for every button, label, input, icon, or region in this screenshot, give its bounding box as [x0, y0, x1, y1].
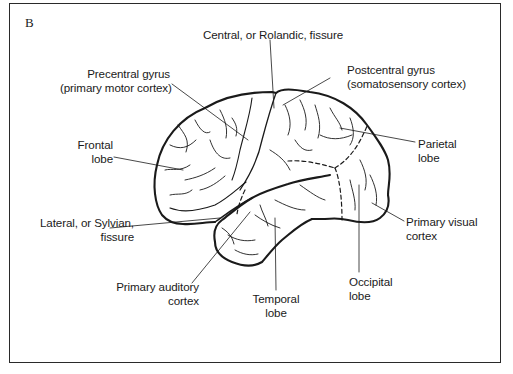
leader-temporal: [275, 218, 276, 290]
leader-frontal: [114, 157, 183, 170]
label-lateral-line1: Lateral, or Sylvian,: [10, 216, 134, 230]
label-precentral-gyrus: Precentral gyrus (primary motor cortex): [60, 67, 170, 94]
label-parietal-lobe: Parietal lobe: [418, 137, 488, 164]
label-auditory-line2: cortex: [95, 294, 199, 308]
label-occipital-line2: lobe: [349, 289, 419, 303]
label-lateral-line2: fissure: [10, 230, 134, 244]
temporal-outline: [214, 175, 330, 266]
label-precentral-line1: Precentral gyrus: [60, 67, 170, 81]
label-lateral-fissure: Lateral, or Sylvian, fissure: [10, 216, 134, 243]
label-precentral-line2: (primary motor cortex): [60, 81, 170, 95]
label-temporal-lobe: Temporal lobe: [241, 292, 311, 319]
label-visual-line2: cortex: [406, 229, 501, 243]
label-frontal-line1: Frontal: [40, 138, 113, 152]
label-frontal-line2: lobe: [40, 152, 113, 166]
label-temporal-line1: Temporal: [241, 292, 311, 306]
label-postcentral-gyrus: Postcentral gyrus (somatosensory cortex): [347, 63, 477, 90]
label-occipital-lobe: Occipital lobe: [349, 275, 419, 302]
label-primary-auditory-cortex: Primary auditory cortex: [95, 280, 199, 307]
label-parietal-line1: Parietal: [418, 137, 488, 151]
label-central-fissure: Central, or Rolandic, fissure: [183, 28, 363, 42]
label-frontal-lobe: Frontal lobe: [40, 138, 113, 165]
label-temporal-line2: lobe: [241, 306, 311, 320]
label-primary-visual-cortex: Primary visual cortex: [406, 215, 501, 242]
label-visual-line1: Primary visual: [406, 215, 501, 229]
brain-outline: [205, 90, 390, 223]
label-auditory-line1: Primary auditory: [95, 280, 199, 294]
label-postcentral-line1: Postcentral gyrus: [347, 63, 477, 77]
leader-postcentral: [283, 78, 330, 105]
leader-central: [270, 40, 274, 108]
label-postcentral-line2: (somatosensory cortex): [347, 77, 477, 91]
label-parietal-line2: lobe: [418, 151, 488, 165]
label-central-fissure-text: Central, or Rolandic, fissure: [203, 28, 343, 41]
label-occipital-line1: Occipital: [349, 275, 419, 289]
